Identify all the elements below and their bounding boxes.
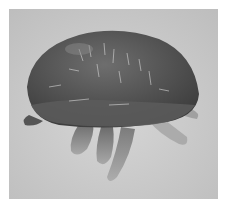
mite-photo: [9, 9, 218, 199]
mite-illustration: [9, 9, 218, 199]
caption-cropped: [9, 202, 129, 209]
highlight: [65, 43, 93, 55]
